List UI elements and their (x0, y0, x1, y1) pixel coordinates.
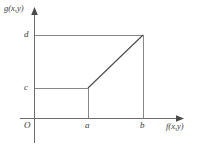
x-axis-label: f(x,y) (166, 122, 184, 131)
y-axis-label: g(x,y) (4, 4, 24, 13)
y-axis-arrowhead (31, 7, 38, 15)
x-tick-label-b: b (140, 121, 145, 130)
origin-label: O (24, 121, 31, 130)
y-tick-label-d: d (24, 30, 29, 39)
math-figure: g(x,y) f(x,y) O a b c d (0, 0, 204, 150)
guide-lines-group (35, 35, 144, 119)
ramp-diagonal-segment (88, 35, 143, 88)
axes-group (20, 14, 178, 143)
y-tick-label-c: c (24, 83, 28, 92)
x-tick-label-a: a (85, 121, 90, 130)
